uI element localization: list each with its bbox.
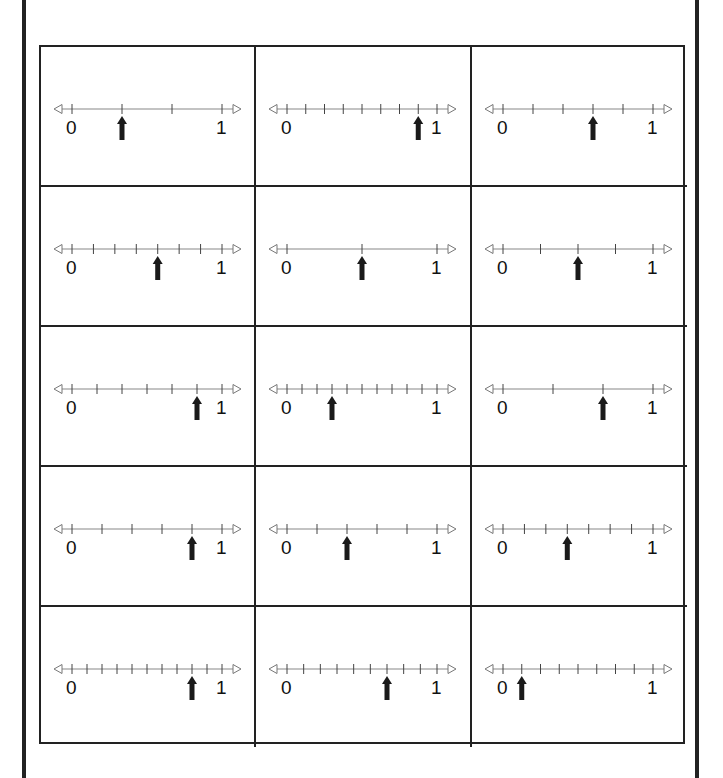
label-zero: 0 bbox=[66, 537, 77, 558]
label-zero: 0 bbox=[497, 117, 508, 138]
right-arrowhead-icon bbox=[448, 665, 456, 674]
label-one: 1 bbox=[647, 117, 658, 138]
pointer-arrow-icon bbox=[382, 676, 392, 700]
number-line: 01 bbox=[256, 187, 470, 325]
number-line: 01 bbox=[472, 327, 686, 465]
number-line-card: 01 bbox=[256, 47, 472, 187]
label-one: 1 bbox=[647, 257, 658, 278]
number-line-card: 01 bbox=[256, 607, 472, 747]
label-one: 1 bbox=[647, 397, 658, 418]
label-zero: 0 bbox=[497, 257, 508, 278]
label-zero: 0 bbox=[281, 257, 292, 278]
pointer-arrow-icon bbox=[153, 256, 163, 280]
pointer-arrow-icon bbox=[342, 536, 352, 560]
left-arrowhead-icon bbox=[54, 245, 62, 254]
pointer-arrow-icon bbox=[517, 676, 527, 700]
page-border-right bbox=[695, 0, 699, 778]
label-one: 1 bbox=[647, 537, 658, 558]
label-one: 1 bbox=[431, 397, 442, 418]
number-line-card-grid: 010101010101010101010101010101 bbox=[39, 45, 685, 744]
right-arrowhead-icon bbox=[664, 525, 672, 534]
left-arrowhead-icon bbox=[269, 525, 277, 534]
number-line: 01 bbox=[472, 607, 686, 745]
label-one: 1 bbox=[216, 397, 227, 418]
label-one: 1 bbox=[216, 537, 227, 558]
number-line-card: 01 bbox=[472, 467, 687, 607]
pointer-arrow-icon bbox=[413, 116, 423, 140]
label-one: 1 bbox=[216, 257, 227, 278]
right-arrowhead-icon bbox=[233, 525, 241, 534]
right-arrowhead-icon bbox=[664, 665, 672, 674]
label-zero: 0 bbox=[281, 117, 292, 138]
number-line-card: 01 bbox=[472, 187, 687, 327]
pointer-arrow-icon bbox=[562, 536, 572, 560]
left-arrowhead-icon bbox=[485, 665, 493, 674]
left-arrowhead-icon bbox=[269, 665, 277, 674]
label-zero: 0 bbox=[497, 677, 508, 698]
label-one: 1 bbox=[431, 257, 442, 278]
right-arrowhead-icon bbox=[664, 385, 672, 394]
number-line-card: 01 bbox=[41, 187, 256, 327]
number-line-card: 01 bbox=[256, 467, 472, 607]
number-line: 01 bbox=[41, 47, 255, 185]
number-line-card: 01 bbox=[41, 467, 256, 607]
pointer-arrow-icon bbox=[187, 536, 197, 560]
label-zero: 0 bbox=[497, 397, 508, 418]
right-arrowhead-icon bbox=[448, 385, 456, 394]
number-line: 01 bbox=[41, 187, 255, 325]
pointer-arrow-icon bbox=[187, 676, 197, 700]
left-arrowhead-icon bbox=[269, 245, 277, 254]
right-arrowhead-icon bbox=[448, 105, 456, 114]
label-zero: 0 bbox=[281, 537, 292, 558]
left-arrowhead-icon bbox=[54, 105, 62, 114]
label-zero: 0 bbox=[281, 677, 292, 698]
label-one: 1 bbox=[647, 677, 658, 698]
label-one: 1 bbox=[431, 537, 442, 558]
number-line-card: 01 bbox=[256, 187, 472, 327]
number-line: 01 bbox=[41, 327, 255, 465]
right-arrowhead-icon bbox=[664, 105, 672, 114]
pointer-arrow-icon bbox=[357, 256, 367, 280]
pointer-arrow-icon bbox=[192, 396, 202, 420]
number-line: 01 bbox=[41, 607, 255, 745]
number-line: 01 bbox=[41, 467, 255, 605]
left-arrowhead-icon bbox=[54, 525, 62, 534]
page-border-left bbox=[22, 0, 26, 778]
pointer-arrow-icon bbox=[327, 396, 337, 420]
right-arrowhead-icon bbox=[664, 245, 672, 254]
left-arrowhead-icon bbox=[485, 525, 493, 534]
number-line-card: 01 bbox=[472, 47, 687, 187]
number-line-card: 01 bbox=[41, 47, 256, 187]
number-line: 01 bbox=[472, 467, 686, 605]
number-line: 01 bbox=[256, 607, 470, 745]
number-line-card: 01 bbox=[256, 327, 472, 467]
number-line-card: 01 bbox=[472, 607, 687, 747]
right-arrowhead-icon bbox=[233, 105, 241, 114]
label-zero: 0 bbox=[66, 117, 77, 138]
number-line: 01 bbox=[472, 187, 686, 325]
number-line: 01 bbox=[472, 47, 686, 185]
label-zero: 0 bbox=[497, 537, 508, 558]
pointer-arrow-icon bbox=[588, 116, 598, 140]
label-zero: 0 bbox=[281, 397, 292, 418]
left-arrowhead-icon bbox=[485, 245, 493, 254]
label-zero: 0 bbox=[66, 397, 77, 418]
right-arrowhead-icon bbox=[233, 665, 241, 674]
pointer-arrow-icon bbox=[117, 116, 127, 140]
number-line-card: 01 bbox=[472, 327, 687, 467]
right-arrowhead-icon bbox=[448, 245, 456, 254]
left-arrowhead-icon bbox=[54, 665, 62, 674]
left-arrowhead-icon bbox=[269, 105, 277, 114]
label-zero: 0 bbox=[66, 677, 77, 698]
number-line: 01 bbox=[256, 467, 470, 605]
right-arrowhead-icon bbox=[448, 525, 456, 534]
right-arrowhead-icon bbox=[233, 245, 241, 254]
left-arrowhead-icon bbox=[54, 385, 62, 394]
left-arrowhead-icon bbox=[269, 385, 277, 394]
number-line: 01 bbox=[256, 47, 470, 185]
left-arrowhead-icon bbox=[485, 385, 493, 394]
left-arrowhead-icon bbox=[485, 105, 493, 114]
pointer-arrow-icon bbox=[598, 396, 608, 420]
right-arrowhead-icon bbox=[233, 385, 241, 394]
label-one: 1 bbox=[431, 677, 442, 698]
